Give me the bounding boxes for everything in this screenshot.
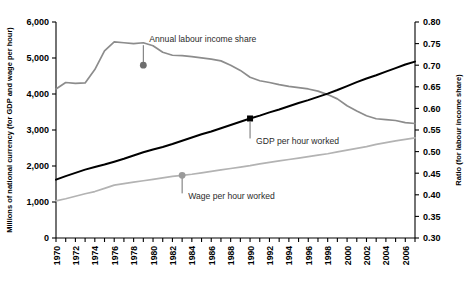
left-axis-tick-label: 0 (44, 233, 49, 243)
x-axis-tick-label: 1982 (168, 246, 178, 265)
annotation-marker-circle (140, 62, 147, 69)
right-axis-tick-label: 0.50 (423, 147, 441, 157)
x-axis-tick-label: 1978 (129, 246, 139, 265)
x-axis-tick-label: 1984 (187, 246, 197, 265)
chart-figure: 01,0002,0003,0004,0005,0006,0000.300.350… (0, 0, 468, 291)
annotation-label-gdp-per-hour-worked: GDP per hour worked (256, 136, 339, 146)
annotation-marker-square (247, 115, 253, 121)
right-axis-tick-label: 0.35 (423, 212, 441, 222)
x-axis-tick-label: 1988 (226, 246, 236, 265)
left-axis-tick-label: 5,000 (26, 53, 49, 63)
x-axis-tick-label: 1992 (265, 246, 275, 265)
annotation-label-annual-labour-income-share: Annual labour income share (149, 34, 256, 44)
x-axis-tick-label: 2000 (343, 246, 353, 265)
x-axis-tick-label: 1974 (90, 246, 100, 265)
right-axis-tick-label: 0.80 (423, 17, 441, 27)
x-axis-tick-label: 1972 (71, 246, 81, 265)
right-axis-tick-label: 0.40 (423, 190, 441, 200)
right-axis-tick-label: 0.75 (423, 39, 441, 49)
x-axis-tick-label: 1970 (52, 246, 62, 265)
annotation-label-wage-per-hour-worked: Wage per hour worked (188, 191, 275, 201)
right-axis-tick-label: 0.65 (423, 82, 441, 92)
x-axis-tick-label: 1986 (207, 246, 217, 265)
x-axis-tick-label: 1976 (110, 246, 120, 265)
left-axis-tick-label: 6,000 (26, 17, 49, 27)
right-axis-tick-label: 0.30 (423, 233, 441, 243)
left-axis-tick-label: 2,000 (26, 161, 49, 171)
right-axis-tick-label: 0.70 (423, 61, 441, 71)
x-axis-tick-label: 2004 (381, 246, 391, 265)
right-axis-tick-label: 0.45 (423, 169, 441, 179)
x-axis-tick-label: 1980 (149, 246, 159, 265)
left-axis-tick-label: 4,000 (26, 89, 49, 99)
x-axis-tick-label: 1994 (284, 246, 294, 265)
x-axis-tick-label: 1990 (246, 246, 256, 265)
right-axis-tick-label: 0.60 (423, 104, 441, 114)
right-axis-title: Ratio (for labour income share) (454, 74, 463, 186)
left-axis-title: Millions of national currency (for GDP a… (5, 27, 14, 233)
annotation-marker-circle (179, 172, 186, 179)
x-axis-tick-label: 2002 (362, 246, 372, 265)
left-axis-tick-label: 1,000 (26, 197, 49, 207)
left-axis-tick-label: 3,000 (26, 125, 49, 135)
x-axis-tick-label: 1996 (304, 246, 314, 265)
x-axis-tick-label: 2006 (401, 246, 411, 265)
x-axis-tick-label: 1998 (323, 246, 333, 265)
right-axis-tick-label: 0.55 (423, 125, 441, 135)
